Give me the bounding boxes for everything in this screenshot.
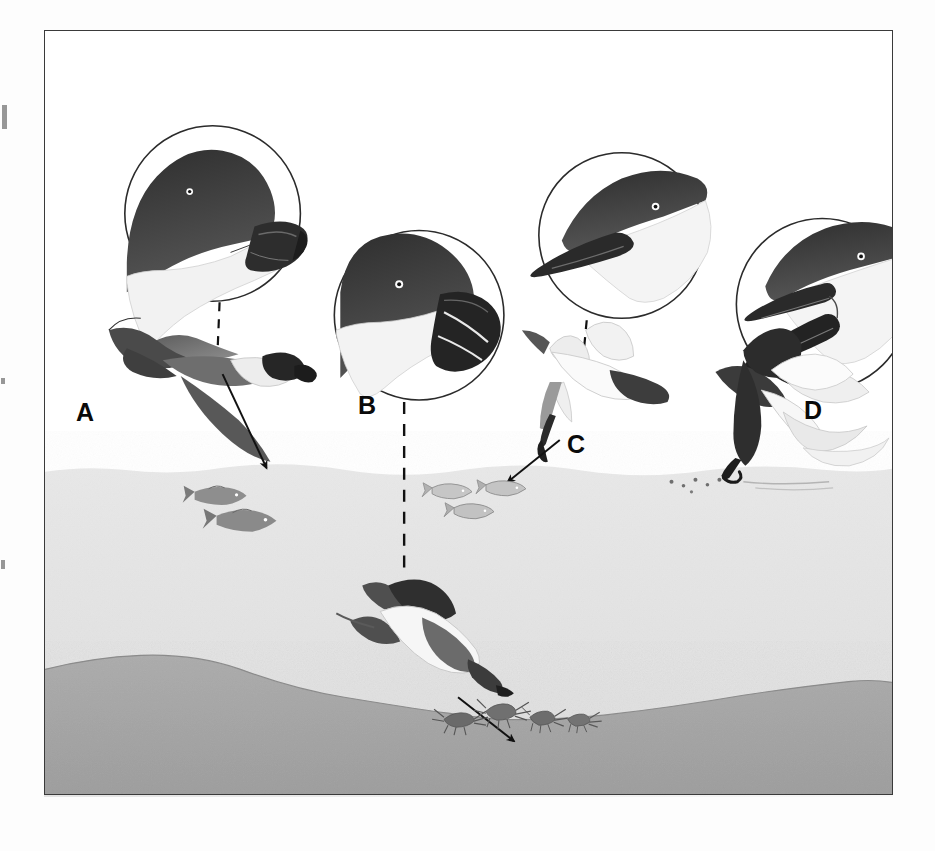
left-margin-mark-mid-artifact — [1, 378, 5, 384]
bird-body-c — [522, 322, 669, 462]
bird-label-b: B — [358, 393, 376, 418]
figure-frame: A B C D — [44, 30, 893, 795]
page-bottom-shadow — [44, 795, 893, 797]
left-margin-mark-low-artifact — [1, 560, 5, 569]
bird-label-c: C — [567, 432, 585, 457]
leader-line-a — [218, 302, 220, 350]
head-circle-a — [125, 126, 308, 350]
left-margin-mark-top-artifact — [2, 105, 7, 129]
bill-a-hooked-tubenose — [245, 222, 307, 272]
bird-body-a — [109, 318, 317, 462]
figure-illustration — [45, 31, 892, 794]
head-circle-c — [530, 153, 711, 319]
bird-label-a: A — [76, 400, 94, 425]
head-circle-b — [334, 230, 504, 400]
bird-label-d: D — [804, 398, 822, 423]
